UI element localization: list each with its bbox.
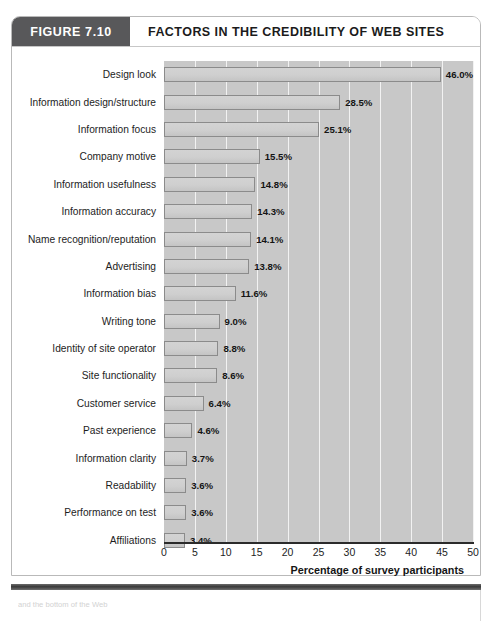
category-label: Information design/structure xyxy=(12,88,164,115)
bar xyxy=(164,149,260,164)
bar xyxy=(164,286,236,301)
bar xyxy=(164,396,204,411)
bar-row: 3.7% xyxy=(164,444,473,471)
category-label: Readability xyxy=(12,472,164,499)
bar-row: 14.1% xyxy=(164,225,473,252)
bar xyxy=(164,95,340,110)
x-axis-tick-labels: 05101520253035404550 xyxy=(164,546,473,562)
category-label: Information usefulness xyxy=(12,171,164,198)
category-label: Past experience xyxy=(12,417,164,444)
bar-row: 46.0% xyxy=(164,61,473,88)
category-label: Information focus xyxy=(12,116,164,143)
bar xyxy=(164,67,441,82)
bar xyxy=(164,314,220,329)
x-tick-20: 20 xyxy=(282,546,294,558)
category-label-column: Design lookInformation design/structureI… xyxy=(12,61,164,554)
bars-layer: 46.0%28.5%25.1%15.5%14.8%14.3%14.1%13.8%… xyxy=(164,61,473,542)
page-caption-text: and the bottom of the Web xyxy=(18,600,478,609)
bar-row: 9.0% xyxy=(164,308,473,335)
category-label: Identity of site operator xyxy=(12,335,164,362)
x-tick-50: 50 xyxy=(467,546,479,558)
bar xyxy=(164,368,217,383)
plot-area: 46.0%28.5%25.1%15.5%14.8%14.3%14.1%13.8%… xyxy=(164,61,473,542)
bar-row: 3.6% xyxy=(164,472,473,499)
bar-row: 14.3% xyxy=(164,198,473,225)
bar-row: 15.5% xyxy=(164,143,473,170)
category-label: Affiliations xyxy=(12,527,164,554)
bar xyxy=(164,423,192,438)
side-rule xyxy=(480,590,481,621)
bar-row: 14.8% xyxy=(164,171,473,198)
category-label: Company motive xyxy=(12,143,164,170)
x-tick-15: 15 xyxy=(251,546,263,558)
figure-frame: FIGURE 7.10 FACTORS IN THE CREDIBILITY O… xyxy=(11,16,481,576)
x-tick-10: 10 xyxy=(220,546,232,558)
bar-row: 6.4% xyxy=(164,390,473,417)
bar xyxy=(164,259,249,274)
bar xyxy=(164,505,186,520)
bar-value-label: 3.6% xyxy=(191,507,213,518)
bar-value-label: 8.8% xyxy=(223,343,245,354)
category-label: Site functionality xyxy=(12,362,164,389)
figure-number-badge: FIGURE 7.10 xyxy=(12,17,130,46)
category-label: Name recognition/reputation xyxy=(12,225,164,252)
x-axis-title: Percentage of survey participants xyxy=(12,564,473,576)
category-label: Design look xyxy=(12,61,164,88)
bar-row: 28.5% xyxy=(164,88,473,115)
x-axis-line xyxy=(164,542,474,544)
bottom-rule xyxy=(11,584,481,590)
x-tick-25: 25 xyxy=(313,546,325,558)
figure-title: FACTORS IN THE CREDIBILITY OF WEB SITES xyxy=(148,25,444,39)
bar-value-label: 4.6% xyxy=(197,425,219,436)
bar-value-label: 11.6% xyxy=(241,288,268,299)
figure-title-container: FACTORS IN THE CREDIBILITY OF WEB SITES xyxy=(130,17,480,46)
bar xyxy=(164,204,252,219)
bar-value-label: 9.0% xyxy=(225,316,247,327)
bar-value-label: 25.1% xyxy=(324,124,351,135)
bar-value-label: 28.5% xyxy=(345,97,372,108)
category-label: Performance on test xyxy=(12,499,164,526)
bar-value-label: 3.6% xyxy=(191,480,213,491)
x-tick-40: 40 xyxy=(405,546,417,558)
category-label: Information clarity xyxy=(12,444,164,471)
bar-row: 8.8% xyxy=(164,335,473,362)
bar-value-label: 15.5% xyxy=(265,151,292,162)
bar xyxy=(164,177,255,192)
bar-value-label: 13.8% xyxy=(254,261,281,272)
bar-row: 3.6% xyxy=(164,499,473,526)
x-tick-5: 5 xyxy=(192,546,198,558)
bar xyxy=(164,232,251,247)
bar-row: 11.6% xyxy=(164,280,473,307)
bar-value-label: 14.1% xyxy=(256,234,283,245)
x-tick-30: 30 xyxy=(344,546,356,558)
bar-value-label: 3.4% xyxy=(190,535,212,546)
bar-value-label: 46.0% xyxy=(446,69,473,80)
bar-value-label: 14.8% xyxy=(260,179,287,190)
category-label: Customer service xyxy=(12,390,164,417)
bar-row: 25.1% xyxy=(164,116,473,143)
figure-header: FIGURE 7.10 FACTORS IN THE CREDIBILITY O… xyxy=(12,17,480,46)
bar-row: 13.8% xyxy=(164,253,473,280)
bar-row: 4.6% xyxy=(164,417,473,444)
gridline-50 xyxy=(473,61,474,542)
bar-value-label: 8.6% xyxy=(222,370,244,381)
bar xyxy=(164,122,319,137)
category-label: Information accuracy xyxy=(12,198,164,225)
x-tick-45: 45 xyxy=(436,546,448,558)
x-tick-35: 35 xyxy=(374,546,386,558)
bar-value-label: 3.7% xyxy=(192,453,214,464)
bar-value-label: 6.4% xyxy=(209,398,231,409)
bar xyxy=(164,341,218,356)
category-label: Writing tone xyxy=(12,308,164,335)
bar xyxy=(164,451,187,466)
bar-row: 8.6% xyxy=(164,362,473,389)
bar-chart: Design lookInformation design/structureI… xyxy=(12,47,480,577)
category-label: Advertising xyxy=(12,253,164,280)
x-tick-0: 0 xyxy=(161,546,167,558)
bar-value-label: 14.3% xyxy=(257,206,284,217)
category-label: Information bias xyxy=(12,280,164,307)
bar xyxy=(164,478,186,493)
